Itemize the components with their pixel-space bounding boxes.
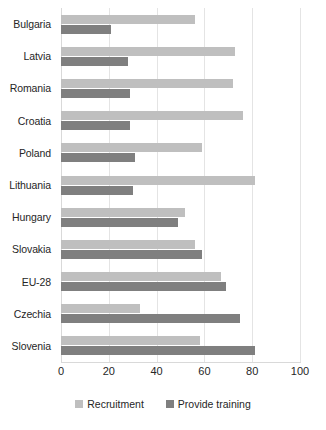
bar-recruitment: [61, 176, 255, 185]
x-tick-label: 100: [291, 365, 309, 377]
bar-group: [61, 298, 300, 330]
x-axis-tick-labels: 020406080100: [0, 365, 326, 381]
bar-provide-training: [61, 314, 240, 323]
plot-area: [61, 8, 300, 362]
x-axis-line: [61, 362, 301, 363]
bar-group: [61, 330, 300, 362]
x-tick-label: 0: [58, 365, 64, 377]
x-tick-label: 60: [198, 365, 210, 377]
bar-recruitment: [61, 208, 185, 217]
category-label: Czechia: [0, 298, 56, 330]
category-label: Slovakia: [0, 233, 56, 265]
category-label: Latvia: [0, 40, 56, 72]
bar-provide-training: [61, 186, 133, 195]
bar-recruitment: [61, 143, 202, 152]
category-label: Bulgaria: [0, 8, 56, 40]
legend-item[interactable]: Provide training: [166, 398, 251, 410]
x-tick-label: 20: [103, 365, 115, 377]
bar-group: [61, 8, 300, 40]
bar-recruitment: [61, 47, 235, 56]
category-label: Romania: [0, 72, 56, 104]
category-label: Croatia: [0, 105, 56, 137]
category-label: Slovenia: [0, 330, 56, 362]
category-label: Lithuania: [0, 169, 56, 201]
bar-provide-training: [61, 89, 130, 98]
bar-recruitment: [61, 336, 200, 345]
legend-label: Provide training: [178, 398, 251, 410]
bar-group: [61, 169, 300, 201]
bar-provide-training: [61, 282, 226, 291]
bar-recruitment: [61, 272, 221, 281]
category-axis-labels: BulgariaLatviaRomaniaCroatiaPolandLithua…: [0, 8, 56, 362]
bar-provide-training: [61, 218, 178, 227]
legend-swatch-icon: [75, 400, 83, 408]
chart-legend: RecruitmentProvide training: [0, 398, 326, 410]
bar-provide-training: [61, 121, 130, 130]
bar-group: [61, 137, 300, 169]
gridline-100: [300, 8, 301, 362]
bar-group: [61, 40, 300, 72]
category-label: EU-28: [0, 266, 56, 298]
bar-recruitment: [61, 15, 195, 24]
category-label: Poland: [0, 137, 56, 169]
bar-recruitment: [61, 304, 140, 313]
x-tick-label: 40: [150, 365, 162, 377]
bar-provide-training: [61, 153, 135, 162]
legend-label: Recruitment: [87, 398, 144, 410]
bar-recruitment: [61, 111, 243, 120]
bar-recruitment: [61, 79, 233, 88]
bar-group: [61, 266, 300, 298]
bar-rows: [61, 8, 300, 362]
bar-provide-training: [61, 346, 255, 355]
bar-provide-training: [61, 57, 128, 66]
bar-group: [61, 105, 300, 137]
legend-swatch-icon: [166, 400, 174, 408]
bar-chart: BulgariaLatviaRomaniaCroatiaPolandLithua…: [0, 0, 326, 430]
x-tick-label: 80: [246, 365, 258, 377]
bar-provide-training: [61, 25, 111, 34]
legend-item[interactable]: Recruitment: [75, 398, 144, 410]
bar-recruitment: [61, 240, 195, 249]
bar-group: [61, 201, 300, 233]
bar-group: [61, 233, 300, 265]
bar-provide-training: [61, 250, 202, 259]
category-label: Hungary: [0, 201, 56, 233]
bar-group: [61, 72, 300, 104]
